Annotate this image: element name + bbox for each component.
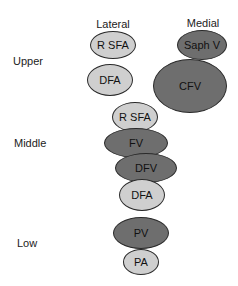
row-label-low: Low [17,237,37,249]
row-label-upper: Upper [13,55,43,67]
row-label-middle: Middle [14,137,46,149]
vessel-label: DFV [135,162,157,174]
column-header-medial: Medial [187,17,219,29]
vessel-label: R SFA [119,111,151,123]
vessel-middle-dfa: DFA [119,179,165,211]
vessel-cfv: CFV [153,59,227,113]
vessel-upper-r-sfa: R SFA [90,31,136,59]
vessel-label: DFA [99,74,120,86]
vessel-pa: PA [123,249,159,275]
vessel-pv: PV [113,217,169,249]
vessel-label: DFA [131,189,152,201]
vessel-upper-dfa: DFA [87,64,133,96]
vessel-label: PA [134,256,148,268]
vessel-label: Saph V [184,39,220,51]
vessel-label: PV [134,227,149,239]
vessel-label: FV [129,137,143,149]
vessel-saph-v: Saph V [177,30,227,60]
vessel-label: CFV [179,80,201,92]
column-header-lateral: Lateral [96,18,130,30]
vessel-label: R SFA [97,39,129,51]
